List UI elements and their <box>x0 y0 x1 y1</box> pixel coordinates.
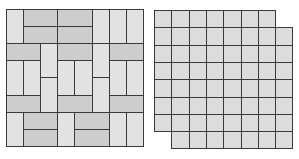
square-paver <box>189 79 207 98</box>
horizontal-paver <box>6 95 41 113</box>
square-paver <box>223 131 242 149</box>
horizontal-paver <box>57 43 93 61</box>
square-paver <box>258 10 276 28</box>
square-paver <box>206 10 224 28</box>
square-paver <box>241 79 259 98</box>
square-paver <box>241 97 259 115</box>
square-paver <box>206 45 224 63</box>
square-paver <box>171 114 190 132</box>
square-paver <box>223 27 242 46</box>
horizontal-paver <box>23 112 58 130</box>
square-paver <box>258 97 276 115</box>
square-paver <box>223 97 242 115</box>
square-paver <box>258 114 276 132</box>
square-paver <box>171 45 190 63</box>
square-paver <box>189 27 207 46</box>
square-paver <box>275 114 293 132</box>
square-paver <box>189 45 207 63</box>
vertical-paver <box>109 9 127 44</box>
horizontal-paver <box>109 95 144 113</box>
square-paver <box>154 97 172 115</box>
square-paver <box>241 27 259 46</box>
vertical-paver <box>74 60 93 96</box>
square-paver <box>154 62 172 80</box>
vertical-paver <box>126 112 144 147</box>
vertical-paver <box>6 9 24 44</box>
square-paver <box>171 97 190 115</box>
square-paver <box>223 45 242 63</box>
square-paver <box>275 27 293 46</box>
square-paver <box>154 27 172 46</box>
square-paver <box>275 97 293 115</box>
horizontal-paver <box>23 9 58 27</box>
square-paver <box>206 131 224 149</box>
vertical-paver <box>57 60 75 96</box>
square-paver <box>241 131 259 149</box>
square-paver <box>189 62 207 80</box>
vertical-paver <box>23 60 41 96</box>
horizontal-paver <box>74 129 110 147</box>
vertical-paver <box>126 60 144 96</box>
square-paver <box>171 79 190 98</box>
vertical-paver <box>6 60 24 96</box>
vertical-paver <box>92 77 110 113</box>
square-paver <box>241 62 259 80</box>
square-paver <box>223 79 242 98</box>
horizontal-paver <box>23 129 58 147</box>
square-paver <box>258 79 276 98</box>
square-paver <box>189 114 207 132</box>
vertical-paver <box>92 43 110 78</box>
vertical-paver <box>57 112 75 147</box>
square-paver <box>189 10 207 28</box>
horizontal-paver <box>109 43 144 61</box>
horizontal-paver <box>6 43 41 61</box>
square-paver <box>154 45 172 63</box>
square-paver <box>223 114 242 132</box>
square-paver <box>206 27 224 46</box>
square-paver <box>206 97 224 115</box>
square-paver <box>258 27 276 46</box>
square-paver <box>258 62 276 80</box>
square-paver <box>171 10 190 28</box>
square-paver <box>241 45 259 63</box>
horizontal-paver <box>57 26 93 44</box>
square-paver <box>258 45 276 63</box>
vertical-paver <box>126 9 144 44</box>
square-paver <box>275 79 293 98</box>
square-paver <box>206 114 224 132</box>
square-paver <box>223 10 242 28</box>
vertical-paver <box>109 112 127 147</box>
square-paver <box>206 79 224 98</box>
square-paver <box>154 79 172 98</box>
horizontal-paver <box>23 26 58 44</box>
square-paver <box>171 27 190 46</box>
square-paver <box>223 62 242 80</box>
vertical-paver <box>109 60 127 96</box>
square-paver <box>171 62 190 80</box>
vertical-paver <box>92 9 110 44</box>
square-paver <box>189 97 207 115</box>
horizontal-paver <box>57 95 93 113</box>
vertical-paver <box>6 112 24 147</box>
square-paver <box>206 62 224 80</box>
vertical-paver <box>40 77 58 113</box>
square-paver <box>275 45 293 63</box>
square-paver <box>241 10 259 28</box>
horizontal-paver <box>74 112 110 130</box>
square-paver <box>154 10 172 28</box>
square-paver <box>171 131 190 149</box>
square-paver <box>241 114 259 132</box>
vertical-paver <box>40 43 58 78</box>
square-paver <box>258 131 276 149</box>
square-paver <box>275 131 293 149</box>
horizontal-paver <box>57 9 93 27</box>
square-paver <box>275 62 293 80</box>
square-paver <box>189 131 207 149</box>
square-paver <box>154 114 172 132</box>
